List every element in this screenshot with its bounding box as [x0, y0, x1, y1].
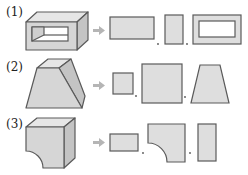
problem-1: (1) — [6, 5, 241, 50]
view-rectangle-with-hole — [193, 15, 241, 44]
separator-comma — [157, 43, 159, 45]
separator-comma — [189, 152, 191, 154]
right-arrow-icon — [93, 81, 105, 90]
view-trapezoid — [191, 65, 229, 103]
separator-comma — [186, 43, 188, 45]
separator-comma — [135, 95, 137, 97]
separator-comma — [184, 96, 186, 98]
view-wide-rectangle — [110, 134, 138, 151]
view-small-square — [113, 73, 133, 94]
problem-label: (3) — [6, 117, 23, 131]
front-face — [26, 127, 64, 168]
solid-square-frustum — [26, 59, 85, 108]
problem-label: (1) — [6, 5, 23, 19]
view-wide-rectangle — [110, 17, 154, 39]
view-large-square — [142, 64, 182, 103]
problem-2: (2) — [6, 59, 229, 108]
separator-comma — [142, 152, 144, 154]
side-face — [64, 118, 75, 168]
problem-3: (3) — [6, 117, 216, 168]
view-narrow-rectangle — [198, 124, 216, 161]
right-arrow-icon — [93, 138, 105, 147]
view-narrow-rectangle — [165, 15, 183, 44]
problem-label: (2) — [6, 60, 23, 74]
diagram: (1) (2) — [0, 0, 248, 175]
solid-block-with-cutout — [26, 118, 75, 168]
solid-rectangular-tube — [26, 12, 88, 50]
right-arrow-icon — [93, 26, 105, 35]
view-square-with-notch — [148, 124, 185, 162]
